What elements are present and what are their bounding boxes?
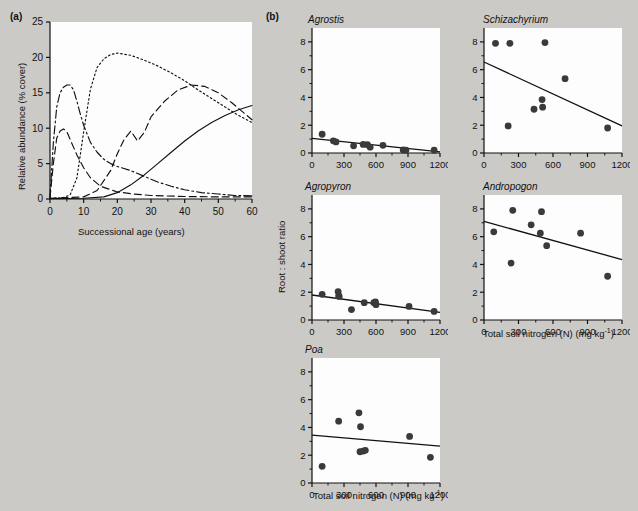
figure-root: (a) Relative abundance (% cover) Success… [0, 0, 638, 511]
svg-text:900: 900 [400, 489, 416, 500]
svg-text:2: 2 [300, 120, 305, 131]
svg-text:600: 600 [545, 159, 561, 170]
svg-text:25: 25 [32, 16, 44, 27]
svg-text:6: 6 [300, 231, 305, 242]
svg-text:600: 600 [368, 159, 384, 170]
svg-text:900: 900 [400, 326, 416, 337]
chart-agrostis-root-shoot: 0246803006009001200 [288, 22, 448, 177]
svg-text:6: 6 [472, 231, 477, 242]
svg-text:600: 600 [368, 489, 384, 500]
svg-text:0: 0 [472, 314, 477, 325]
svg-text:300: 300 [511, 326, 527, 337]
chart-successional-abundance: 05101520250102030405060 [0, 0, 265, 245]
svg-text:5: 5 [37, 158, 43, 169]
svg-text:8: 8 [300, 36, 305, 47]
svg-text:40: 40 [179, 206, 191, 217]
svg-text:2: 2 [300, 287, 305, 298]
svg-text:2: 2 [472, 287, 477, 298]
svg-text:20: 20 [32, 52, 44, 63]
panel-b-tag: (b) [266, 11, 279, 22]
svg-text:0: 0 [309, 489, 314, 500]
svg-text:8: 8 [300, 366, 305, 377]
svg-text:4: 4 [300, 92, 305, 103]
svg-text:1200: 1200 [429, 159, 448, 170]
svg-text:6: 6 [300, 394, 305, 405]
svg-text:900: 900 [580, 326, 596, 337]
svg-text:900: 900 [580, 159, 596, 170]
svg-text:0: 0 [300, 477, 305, 488]
svg-text:0: 0 [309, 326, 314, 337]
svg-text:300: 300 [336, 326, 352, 337]
svg-text:1200: 1200 [611, 159, 630, 170]
svg-text:0: 0 [300, 314, 305, 325]
svg-text:2: 2 [472, 120, 477, 131]
svg-text:0: 0 [37, 193, 43, 204]
svg-text:4: 4 [300, 422, 305, 433]
svg-text:4: 4 [472, 259, 477, 270]
svg-text:8: 8 [300, 203, 305, 214]
svg-text:0: 0 [481, 159, 486, 170]
svg-text:6: 6 [472, 64, 477, 75]
svg-text:20: 20 [112, 206, 124, 217]
axis-label-root-shoot-ratio-left: Root : shoot ratio [276, 221, 287, 293]
svg-text:300: 300 [511, 159, 527, 170]
svg-text:0: 0 [309, 159, 314, 170]
svg-text:30: 30 [145, 206, 157, 217]
svg-text:600: 600 [545, 326, 561, 337]
svg-text:6: 6 [300, 64, 305, 75]
svg-text:0: 0 [300, 147, 305, 158]
svg-text:300: 300 [336, 489, 352, 500]
svg-text:0: 0 [481, 326, 486, 337]
svg-text:8: 8 [472, 36, 477, 47]
svg-text:300: 300 [336, 159, 352, 170]
svg-text:10: 10 [32, 123, 44, 134]
svg-text:900: 900 [400, 159, 416, 170]
chart-schizachyrium-root-shoot: 0246803006009001200 [462, 22, 630, 177]
chart-poa-root-shoot: 0246803006009001200 [288, 352, 448, 507]
svg-text:15: 15 [32, 87, 44, 98]
svg-text:1200: 1200 [429, 326, 448, 337]
svg-text:1200: 1200 [429, 489, 448, 500]
svg-text:4: 4 [300, 259, 305, 270]
svg-text:2: 2 [300, 450, 305, 461]
svg-text:0: 0 [47, 206, 53, 217]
svg-text:600: 600 [368, 326, 384, 337]
svg-text:8: 8 [472, 203, 477, 214]
chart-agropyron-root-shoot: 0246803006009001200 [288, 189, 448, 344]
svg-text:10: 10 [78, 206, 90, 217]
svg-text:1200: 1200 [611, 326, 630, 337]
chart-andropogon-root-shoot: 0246803006009001200 [462, 189, 630, 344]
svg-text:50: 50 [213, 206, 225, 217]
svg-text:0: 0 [472, 147, 477, 158]
svg-text:4: 4 [472, 92, 477, 103]
svg-text:60: 60 [246, 206, 258, 217]
